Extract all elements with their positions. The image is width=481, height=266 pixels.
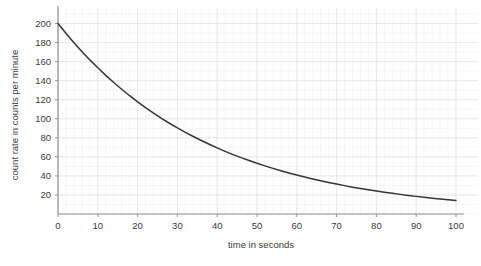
y-tick-label: 160 bbox=[35, 56, 51, 67]
grid-minor-lines bbox=[58, 8, 478, 214]
y-tick-label: 100 bbox=[35, 113, 51, 124]
x-axis-title: time in seconds bbox=[228, 239, 294, 250]
x-tick-label: 0 bbox=[55, 220, 60, 231]
x-tick-label: 50 bbox=[252, 220, 263, 231]
decay-curve-chart: 0102030405060708090100 20406080100120140… bbox=[0, 0, 481, 266]
tick-marks bbox=[55, 24, 456, 217]
y-axis-title: count rate in counts per minute bbox=[9, 50, 20, 180]
y-tick-label: 200 bbox=[35, 18, 51, 29]
x-tick-label: 90 bbox=[411, 220, 422, 231]
y-tick-label: 20 bbox=[40, 189, 51, 200]
chart-container: 0102030405060708090100 20406080100120140… bbox=[0, 0, 481, 266]
x-tick-label: 40 bbox=[212, 220, 223, 231]
x-tick-label: 70 bbox=[331, 220, 342, 231]
y-tick-label: 60 bbox=[40, 151, 51, 162]
grid-major-lines bbox=[58, 8, 478, 214]
x-tick-label: 60 bbox=[292, 220, 303, 231]
y-tick-label: 40 bbox=[40, 170, 51, 181]
x-tick-label: 10 bbox=[93, 220, 104, 231]
y-tick-label: 120 bbox=[35, 94, 51, 105]
x-axis-tick-labels: 0102030405060708090100 bbox=[55, 220, 464, 231]
y-axis-tick-labels: 20406080100120140160180200 bbox=[35, 18, 51, 200]
y-tick-label: 180 bbox=[35, 37, 51, 48]
x-tick-label: 80 bbox=[371, 220, 382, 231]
x-tick-label: 100 bbox=[448, 220, 464, 231]
y-tick-label: 80 bbox=[40, 132, 51, 143]
axis-lines bbox=[58, 6, 464, 214]
x-tick-label: 30 bbox=[172, 220, 183, 231]
y-tick-label: 140 bbox=[35, 75, 51, 86]
x-tick-label: 20 bbox=[132, 220, 143, 231]
